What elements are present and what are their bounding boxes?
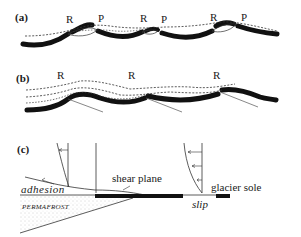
glacier-sole-label: glacier sole xyxy=(211,182,261,193)
diagram-figure: (a) R P R P R P (b) R R R (c) shear plan… xyxy=(0,0,301,237)
marker-label: R xyxy=(213,70,220,81)
marker-label: R xyxy=(128,70,135,81)
permafrost-label: PERMAFROST xyxy=(22,204,69,211)
marker-label: P xyxy=(241,12,247,23)
marker-label: P xyxy=(98,13,104,24)
adhesion-label: adhesion xyxy=(21,184,65,195)
shear-plane-label: shear plane xyxy=(112,173,162,184)
panel-b-bed xyxy=(27,94,145,110)
marker-label: R xyxy=(210,12,217,23)
panel-b-label: (b) xyxy=(16,73,29,84)
panel-a-label: (a) xyxy=(15,12,28,23)
marker-label: P xyxy=(161,14,167,25)
panel-b-drawing xyxy=(26,81,276,112)
slip-label: slip xyxy=(192,199,208,210)
panel-c-label: (c) xyxy=(17,144,29,155)
diagram-drawing xyxy=(0,0,301,237)
marker-label: R xyxy=(57,70,64,81)
marker-label: R xyxy=(140,13,147,24)
panel-a-drawing xyxy=(23,22,277,45)
marker-label: R xyxy=(66,14,73,25)
